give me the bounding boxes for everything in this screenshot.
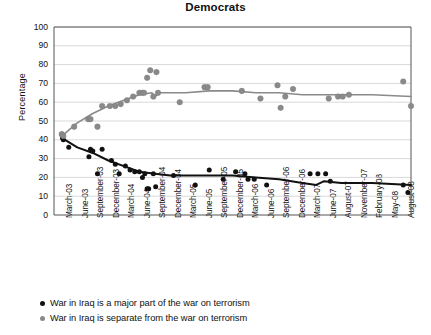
legend-marker-icon	[40, 301, 45, 306]
legend-label-separate: War in Iraq is separate from the war on …	[50, 313, 247, 323]
legend-label-major: War in Iraq is a major part of the war o…	[50, 298, 250, 308]
legend-item-separate: War in Iraq is separate from the war on …	[40, 311, 380, 325]
legend-marker-icon	[40, 316, 45, 321]
chart-legend: War in Iraq is a major part of the war o…	[40, 296, 380, 326]
legend-item-major: War in Iraq is a major part of the war o…	[40, 296, 380, 310]
gridlines	[54, 27, 411, 196]
plot-area	[0, 0, 431, 335]
chart-container: Democrats Percentage 1009080706050403020…	[0, 0, 431, 335]
